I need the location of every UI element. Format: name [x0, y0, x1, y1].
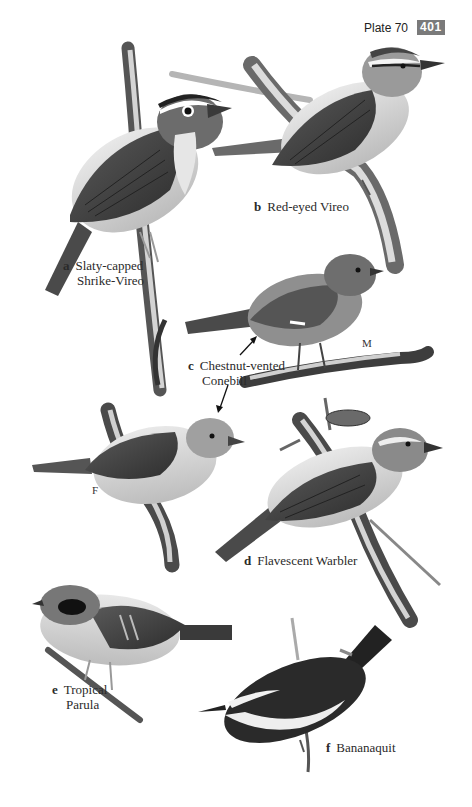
caption-name-line1: Red-eyed Vireo — [267, 199, 349, 214]
caption-name-line1: Flavescent Warbler — [257, 553, 357, 568]
caption-letter: c — [188, 358, 194, 373]
bird-d-flavescent-warbler — [215, 398, 443, 620]
sex-label-female: F — [92, 484, 98, 496]
bird-c-chestnut-vented-conebill-female — [32, 410, 245, 565]
arrow-to-male — [240, 336, 257, 355]
caption-name-line2: Shrike-Vireo — [63, 273, 144, 288]
caption-letter: b — [254, 199, 261, 214]
bird-b-red-eyed-vireo — [172, 47, 445, 265]
caption-f: fBananaquit — [326, 740, 396, 755]
caption-name-line1: Tropical — [64, 682, 108, 697]
caption-name-line1: Bananaquit — [336, 740, 395, 755]
caption-name-line1: Chestnut-vented — [200, 358, 285, 373]
caption-name-line2: Parula — [52, 697, 107, 712]
caption-c: cChestnut-vented Conebill — [188, 358, 285, 388]
bird-a-slaty-capped-shrike-vireo — [45, 48, 232, 390]
caption-name-line1: Slaty-capped — [76, 258, 144, 273]
sex-label-male: M — [362, 337, 372, 349]
arrow-to-female — [216, 385, 228, 413]
caption-b: bRed-eyed Vireo — [254, 199, 349, 214]
caption-letter: e — [52, 682, 58, 697]
caption-name-line2: Conebill — [188, 373, 285, 388]
caption-letter: a — [63, 258, 70, 273]
caption-letter: d — [244, 553, 251, 568]
caption-a: aSlaty-capped Shrike-Vireo — [63, 258, 144, 288]
caption-d: dFlavescent Warbler — [244, 553, 357, 568]
caption-e: eTropical Parula — [52, 682, 107, 712]
caption-letter: f — [326, 740, 330, 755]
